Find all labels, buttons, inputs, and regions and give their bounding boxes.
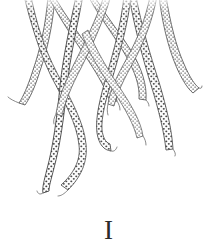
plate-background bbox=[0, 0, 217, 210]
plate-caption-text: I bbox=[104, 217, 113, 244]
top-crop-fade bbox=[0, 0, 217, 14]
tentacle-figure bbox=[0, 0, 217, 210]
plate-caption: I bbox=[0, 210, 217, 250]
tentacle-drawing bbox=[0, 0, 217, 210]
illustration-plate: I bbox=[0, 0, 217, 250]
